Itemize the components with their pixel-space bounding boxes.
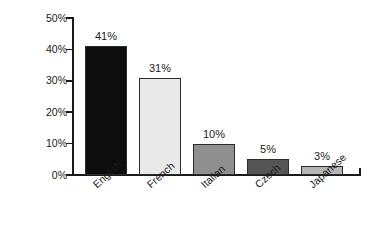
y-axis-tick-label: 0% xyxy=(27,170,67,180)
bar-value-label-french: 31% xyxy=(130,63,190,74)
y-axis-tick-label: 10% xyxy=(27,138,67,148)
bar-value-label-italian: 10% xyxy=(184,129,244,140)
bar-value-label-czech: 5% xyxy=(238,144,298,155)
bar-chart: % of companies 0%10%20%30%40%50% 41%31%1… xyxy=(0,0,375,226)
y-axis-tick-label: 20% xyxy=(27,107,67,117)
bar-value-label-english: 41% xyxy=(76,31,136,42)
bar-english[interactable] xyxy=(85,46,127,175)
y-axis-tick-label: 40% xyxy=(27,44,67,54)
bar-french[interactable] xyxy=(139,78,181,175)
y-axis-tick-label: 30% xyxy=(27,75,67,85)
y-axis-tick-label: 50% xyxy=(27,13,67,23)
